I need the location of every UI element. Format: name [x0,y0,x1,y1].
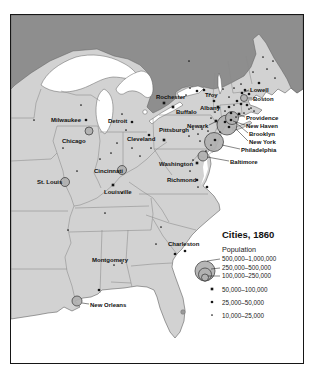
city-label-newark: Newark [187,123,209,129]
city-marker-pittsburgh [163,139,166,142]
city-label-new-york: New York [249,139,276,145]
city-dot [197,133,199,135]
city-dot [233,104,235,106]
city-dot [110,152,112,154]
city-dot [236,100,239,103]
city-dot [121,113,123,115]
city-marker-lowell [241,92,244,95]
city-marker-newark [215,120,218,123]
city-dot [80,104,82,106]
map-legend: Cities, 1860 Population 500,000–1,000,00… [195,229,277,319]
city-dot [104,212,106,214]
city-dot [98,289,101,292]
city-dot [210,144,212,146]
city-dot [274,77,276,79]
city-marker-new-haven [230,119,233,122]
city-dot [33,119,35,121]
legend-label-500k-1m: 500,000–1,000,000 [222,255,277,262]
city-marker-charleston [184,250,187,253]
city-dot [155,243,157,245]
city-label-detroit: Detroit [108,118,127,124]
city-dot [150,147,152,149]
city-dot [210,117,212,119]
city-label-providence: Providence [246,115,279,121]
city-dot [99,158,101,160]
city-marker-milwaukee [85,119,88,122]
city-label-new-orleans: New Orleans [90,302,127,308]
lake-st-clair [143,110,147,114]
legend-subtitle: Population [222,245,256,254]
city-dot [258,82,261,85]
city-dot [174,253,177,256]
city-dot [116,142,118,144]
legend-circle-2 [202,274,209,281]
city-dot [250,107,252,109]
city-dot [243,112,245,114]
city-dot [224,121,227,124]
city-marker-montgomery [113,264,115,266]
city-marker-boston [241,95,248,102]
city-dot [246,104,249,107]
city-marker-new-orleans [72,296,82,306]
city-dot [228,106,231,109]
city-dot [224,110,226,112]
city-dot [230,112,233,115]
city-marker-buffalo [172,106,175,109]
city-dot [262,56,264,58]
legend-symbol-sq [211,288,214,291]
city-label-boston: Boston [253,96,274,102]
city-label-buffalo: Buffalo [176,109,197,115]
city-dot [233,87,235,89]
lake-okeechobee [181,310,186,315]
city-dot [131,147,133,149]
city-dot [199,140,201,142]
city-dot [205,150,207,152]
legend-label-100k-250k: 100,000–250,000 [222,272,272,279]
city-dot [76,170,78,172]
city-dot [160,226,162,228]
city-marker-rochester [163,102,166,105]
city-dot [188,60,190,62]
city-dot [62,147,64,149]
city-label-baltimore: Baltimore [230,159,258,165]
map-image: MilwaukeeChicagoDetroitClevelandPittsbur… [11,15,303,363]
city-dot [235,116,237,118]
legend-label-250k-500k: 250,000–500,000 [222,264,272,271]
city-dot [222,88,224,90]
city-marker-washington [196,162,199,165]
cities-1860-map: MilwaukeeChicagoDetroitClevelandPittsbur… [10,14,304,364]
city-label-charleston: Charleston [168,241,200,247]
legend-symbol-d2 [211,301,214,304]
city-dot [206,186,209,189]
city-label-chicago: Chicago [62,138,86,144]
city-dot [228,96,230,98]
city-dot [248,93,251,96]
legend-title: Cities, 1860 [222,229,274,240]
city-dot [189,87,191,89]
city-dot [67,229,69,231]
city-dot [125,129,127,131]
city-dot [197,186,199,188]
city-label-pittsburgh: Pittsburgh [159,127,189,133]
city-marker-baltimore [198,151,208,161]
city-dot [253,110,255,112]
city-dot [228,126,231,129]
city-dot [248,108,250,110]
city-label-cleveland: Cleveland [127,136,156,142]
city-label-washington: Washington [159,161,193,167]
city-dot [219,131,221,133]
leader-line-new-york [236,129,248,141]
city-dot [214,111,216,113]
city-label-lowell: Lowell [250,87,269,93]
city-label-new-haven: New Haven [246,123,278,129]
city-dot [252,71,254,73]
legend-symbols [195,261,215,316]
city-label-richmond: Richmond [167,177,197,183]
city-label-albany: Albany [200,105,221,111]
city-marker-philadelphia [205,133,224,152]
city-dot [188,135,190,137]
city-marker-providence [238,113,241,116]
legend-symbol-d3 [211,314,213,316]
city-label-brooklyn: Brooklyn [249,131,275,137]
legend-label-25k-50k: 25,000–50,000 [222,299,265,306]
